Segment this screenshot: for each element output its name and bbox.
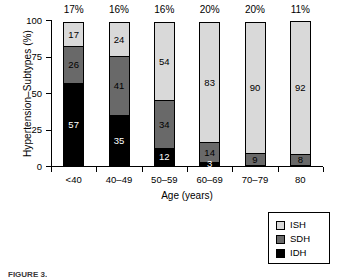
bar-segment-idh: 12: [154, 148, 175, 166]
bar-segment-ish: 90: [245, 22, 266, 153]
figure-stacked-bar-chart: Hypertension–Subtypes (%) 0255075100 172…: [0, 0, 338, 278]
bar-segment-value-label: 57: [68, 120, 79, 130]
bar-column: 83143: [199, 22, 220, 166]
bar-top-percent-label: 11%: [277, 5, 323, 15]
bar-segment-value-label: 90: [250, 83, 261, 93]
bar-segment-idh: 3: [199, 162, 220, 166]
y-axis-tick-label: 75: [16, 52, 42, 61]
bar-segment-value-label: 14: [204, 148, 215, 158]
y-axis-tick-label: 0: [16, 162, 42, 171]
bar-segment-value-label: 35: [114, 136, 125, 146]
bar-column: 244135: [109, 22, 130, 166]
figure-caption: FIGURE 3.: [8, 270, 47, 278]
bar-top-percent-label: 16%: [141, 5, 187, 15]
bar-segment-value-label: 92: [295, 83, 306, 93]
bar-segment-ish: 83: [199, 22, 220, 143]
legend-swatch-idh: [276, 249, 285, 258]
y-axis-tick-label: 50: [16, 89, 42, 98]
bar-segment-sdh: 34: [154, 100, 175, 150]
bar-segment-value-label: 54: [159, 57, 170, 67]
bar-column: 928: [290, 21, 311, 166]
x-axis-tick: [187, 167, 188, 172]
bar-top-percent-label: 20%: [187, 5, 233, 15]
bar-segment-value-label: 12: [159, 152, 170, 162]
bar-segment-value-label: 9: [252, 155, 257, 165]
bar-segment-ish: 17: [63, 22, 84, 47]
x-axis-tick-label: 80: [270, 175, 330, 185]
bar-top-percent-label: 17%: [51, 5, 97, 15]
bar-top-percent-label: 20%: [232, 5, 278, 15]
x-axis-tick: [142, 167, 143, 172]
bar-segment-value-label: 17: [68, 30, 79, 40]
y-axis-tick-label: 100: [16, 16, 42, 25]
x-axis-tick: [51, 167, 52, 172]
bar-top-percent-label: 16%: [96, 5, 142, 15]
legend-label-ish: ISH: [290, 220, 306, 230]
x-axis-tick: [232, 167, 233, 172]
legend-swatch-sdh: [276, 235, 285, 244]
bar-segment-sdh: 9: [245, 153, 266, 166]
bar-segment-ish: 54: [154, 22, 175, 101]
y-axis-tick-label: 25: [16, 125, 42, 134]
bar-segment-ish: 24: [109, 22, 130, 57]
plot-area: 17265724413554341283143909928: [51, 20, 323, 166]
x-axis-tick: [96, 167, 97, 172]
bar-column: 909: [245, 22, 266, 166]
x-axis-tick: [323, 167, 324, 172]
bar-column: 543412: [154, 22, 175, 166]
bar-segment-sdh: 8: [290, 154, 311, 166]
bar-segment-sdh: 14: [199, 142, 220, 162]
bar-segment-value-label: 83: [204, 78, 215, 88]
legend-item-sdh: SDH: [276, 232, 329, 246]
bar-segment-sdh: 41: [109, 56, 130, 116]
bar-segment-value-label: 26: [68, 60, 79, 70]
legend-item-ish: ISH: [276, 218, 329, 232]
bar-segment-idh: 57: [63, 83, 84, 166]
legend-item-idh: IDH: [276, 246, 329, 260]
bar-segment-value-label: 24: [114, 35, 125, 45]
bar-segment-value-label: 41: [114, 81, 125, 91]
bar-segment-value-label: 34: [159, 120, 170, 130]
bar-segment-idh: 35: [109, 115, 130, 166]
bar-segment-ish: 92: [290, 21, 311, 155]
bar-segment-sdh: 26: [63, 46, 84, 84]
bar-segment-value-label: 8: [298, 155, 303, 165]
x-axis-tick: [278, 167, 279, 172]
x-axis-title: Age (years): [51, 190, 323, 201]
legend-label-idh: IDH: [290, 248, 306, 258]
bar-column: 172657: [63, 22, 84, 166]
legend-label-sdh: SDH: [290, 234, 310, 244]
legend: ISH SDH IDH: [268, 212, 330, 264]
legend-swatch-ish: [276, 221, 285, 230]
